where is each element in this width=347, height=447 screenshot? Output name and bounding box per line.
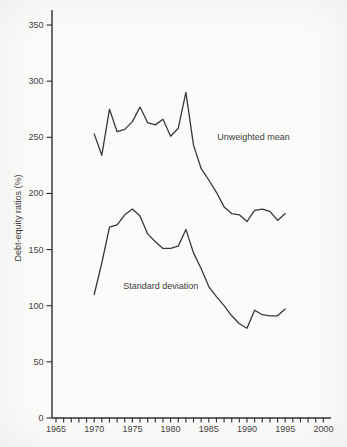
debt-equity-chart: 050100150200250300350 196519701975198019… (0, 0, 347, 447)
y-tick-label: 200 (28, 188, 43, 198)
unweighted-mean-line (94, 92, 285, 221)
figure: 050100150200250300350 196519701975198019… (0, 0, 347, 447)
x-tick-label: 1990 (237, 424, 257, 434)
unweighted-mean-label: Unweighted mean (217, 132, 290, 142)
x-tick-label: 1970 (84, 424, 104, 434)
x-tick-label: 1975 (122, 424, 142, 434)
standard-deviation-line (94, 209, 285, 328)
x-tick-label: 1995 (275, 424, 295, 434)
y-tick-label: 250 (28, 132, 43, 142)
x-tick-label: 2000 (313, 424, 333, 434)
y-tick-label: 0 (38, 413, 43, 423)
x-tick-label: 1985 (199, 424, 219, 434)
y-tick-label: 50 (33, 357, 43, 367)
standard-deviation-label: Standard deviation (123, 281, 198, 291)
y-tick-label: 100 (28, 301, 43, 311)
y-tick-label: 150 (28, 245, 43, 255)
y-tick-label: 350 (28, 20, 43, 30)
x-tick-label: 1980 (161, 424, 181, 434)
x-axis: 19651970197519801985199019952000 (46, 418, 333, 434)
y-tick-label: 300 (28, 76, 43, 86)
x-tick-label: 1965 (46, 424, 66, 434)
y-axis-title: Debt-equity ratios (%) (13, 174, 23, 261)
y-axis: 050100150200250300350 (28, 10, 52, 423)
